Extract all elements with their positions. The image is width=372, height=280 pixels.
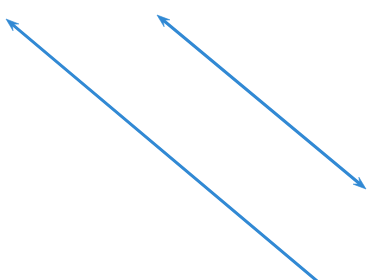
canvas-background: [0, 0, 372, 280]
drawing-canvas: [0, 0, 372, 280]
arrow-canvas-svg: [0, 0, 372, 280]
